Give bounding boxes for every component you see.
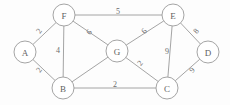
edge-weight-a-b: 2 (34, 66, 44, 74)
graph-figure: ABCDEFG 22546629892 (0, 0, 230, 105)
node-label-b: B (60, 84, 66, 94)
node-label-a: A (22, 48, 29, 58)
graph-node-c[interactable]: C (156, 77, 178, 99)
graph-node-g[interactable]: G (106, 40, 128, 62)
edge-weight-c-d: 9 (187, 66, 196, 75)
node-label-g: G (114, 47, 121, 57)
edge-weight-f-b: 4 (56, 46, 60, 55)
graph-edge-g-c (126, 58, 158, 82)
edge-weight-f-g: 6 (84, 28, 93, 37)
graph-node-d[interactable]: D (197, 41, 219, 63)
node-label-f: F (61, 11, 66, 21)
edge-weight-e-d: 8 (191, 27, 200, 36)
edge-weight-b-c: 2 (113, 80, 117, 89)
graph-node-b[interactable]: B (52, 77, 74, 99)
graph-node-f[interactable]: F (53, 4, 75, 26)
edge-weight-f-e: 5 (116, 7, 120, 16)
edge-weight-e-c: 9 (165, 47, 169, 56)
edge-weight-a-f: 2 (34, 27, 44, 35)
graph-edge-f-b (63, 26, 64, 77)
graph-canvas: ABCDEFG 22546629892 (0, 0, 230, 105)
node-label-c: C (164, 84, 170, 94)
graph-node-e[interactable]: E (162, 4, 184, 26)
node-label-e: E (170, 11, 176, 21)
node-label-d: D (205, 48, 212, 58)
graph-edge-g-b (72, 57, 108, 82)
graph-node-a[interactable]: A (14, 41, 36, 63)
graph-edge-a-f (33, 23, 56, 45)
